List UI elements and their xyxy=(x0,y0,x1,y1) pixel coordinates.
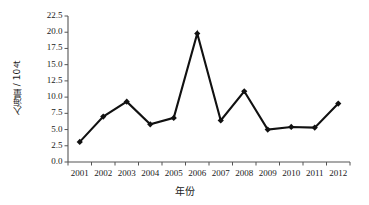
x-axis-title: 年份 xyxy=(0,183,369,198)
y-tick-label: 20.0 xyxy=(31,27,63,36)
y-tick-label: 22.5 xyxy=(31,11,63,20)
y-tick-label: 7.5 xyxy=(31,108,63,117)
y-tick-label: 0.0 xyxy=(31,157,63,166)
data-series-line xyxy=(80,34,339,142)
data-point-marker xyxy=(194,30,200,36)
y-tick-label: 17.5 xyxy=(31,43,63,52)
x-tick-label: 2012 xyxy=(323,169,353,178)
chart-container: 入海量 / 104 t 0.02.55.07.510.012.515.017.5… xyxy=(0,0,369,205)
data-point-marker xyxy=(171,115,177,121)
y-tick-label: 5.0 xyxy=(31,125,63,134)
y-tick-label: 2.5 xyxy=(31,141,63,150)
y-tick-label: 12.5 xyxy=(31,76,63,85)
axes-group xyxy=(68,16,350,162)
y-tick-label: 15.0 xyxy=(31,60,63,69)
y-tick-label: 10.0 xyxy=(31,92,63,101)
data-point-marker xyxy=(288,124,294,130)
